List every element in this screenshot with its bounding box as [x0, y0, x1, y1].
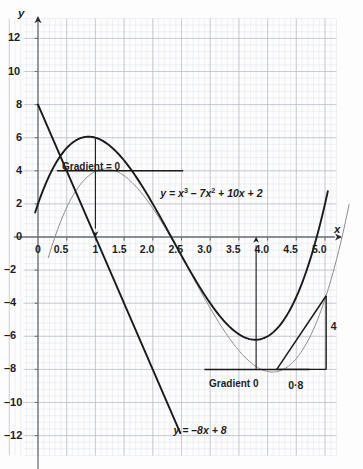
x-tick-label: 1: [92, 244, 98, 255]
equation-cubic-label: y = x3 – 7x2 + 10x + 2: [160, 188, 262, 199]
x-axis-label: x: [334, 224, 340, 236]
graph-canvas: [0, 0, 363, 469]
y-axis-label: y: [18, 8, 24, 20]
y-tick-label: 4: [16, 165, 22, 176]
gradient-max-label: Gradient = 0: [62, 162, 120, 172]
graph-figure: yx00.511.52.02.53.03.54.04.55.0121086420…: [0, 0, 363, 469]
y-tick-label: 12: [8, 32, 20, 43]
y-tick-label: –10: [4, 397, 22, 408]
y-tick-label: –8: [4, 363, 16, 374]
triangle-run-label: 0·8: [288, 380, 303, 391]
gradient-min-label: Gradient 0: [209, 379, 258, 389]
x-tick-label: 3.0: [197, 244, 212, 255]
y-tick-label: –6: [4, 330, 16, 341]
y-tick-label: –12: [4, 430, 22, 441]
triangle-rise-label: 4: [331, 321, 337, 332]
x-tick-label: 4.0: [255, 244, 270, 255]
x-tick-label: 1.5: [112, 244, 127, 255]
y-tick-label: –2: [4, 264, 16, 275]
y-tick-label: 6: [16, 132, 22, 143]
y-tick-label: 8: [16, 99, 22, 110]
x-tick-label: 3.5: [226, 244, 241, 255]
x-tick-label: 0.5: [54, 244, 69, 255]
y-tick-label: 0: [16, 231, 22, 242]
x-tick-label: 4.5: [283, 244, 298, 255]
equation-line-label: y = –8x + 8: [173, 425, 226, 436]
x-tick-label: 2.0: [140, 244, 155, 255]
x-tick-label: 5.0: [312, 244, 327, 255]
y-tick-label: 10: [8, 66, 20, 77]
x-tick-label: 0: [35, 244, 41, 255]
x-tick-label: 2.5: [169, 244, 184, 255]
y-tick-label: 2: [16, 198, 22, 209]
y-tick-label: –4: [4, 297, 16, 308]
